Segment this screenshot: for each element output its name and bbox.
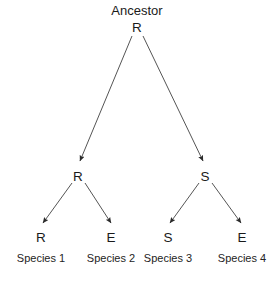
edge-root-to-right-internal — [143, 36, 203, 161]
leaf-caption-species-3: Species 3 — [144, 253, 192, 264]
root-node-state-label: R — [132, 21, 142, 34]
leaf-state-label-species-2: E — [106, 231, 115, 244]
leaf-state-label-species-4: E — [237, 231, 246, 244]
edge-right-internal-to-species-3 — [170, 183, 199, 223]
internal-node-left-state-label: R — [73, 170, 83, 183]
edge-left-internal-to-species-2 — [85, 183, 111, 223]
ancestor-title-label: Ancestor — [111, 4, 162, 17]
phylogenetic-tree-diagram: Ancestor R R S R E S E Species 1 Species… — [0, 0, 280, 282]
leaf-state-label-species-1: R — [36, 231, 46, 244]
leaf-caption-species-2: Species 2 — [87, 253, 135, 264]
edge-root-to-left-internal — [80, 36, 132, 161]
edge-right-internal-to-species-4 — [212, 183, 241, 223]
leaf-caption-species-4: Species 4 — [218, 253, 266, 264]
edge-left-internal-to-species-1 — [43, 183, 72, 223]
leaf-caption-species-1: Species 1 — [17, 253, 65, 264]
leaf-state-label-species-3: S — [163, 231, 172, 244]
internal-node-right-state-label: S — [200, 170, 209, 183]
